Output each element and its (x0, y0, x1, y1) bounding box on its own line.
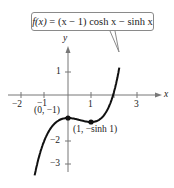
x-axis-label: x (164, 90, 168, 100)
point-label-1-neg-sinh1: (1, −sinh 1) (73, 125, 117, 135)
x-axis-arrow-icon (155, 93, 162, 98)
tick-label-x-1: 1 (88, 100, 93, 110)
tick-label-x-neg2: −2 (12, 100, 22, 110)
point-label-0-neg1: (0, −1) (34, 106, 60, 116)
function-callout: f(x) = (x − 1) cosh x − sinh x (31, 12, 154, 31)
callout-pointer (110, 31, 119, 52)
tick-label-y-1: 1 (56, 67, 61, 77)
tick-label-y-neg2: −2 (50, 136, 60, 146)
point-0-neg1 (65, 115, 70, 120)
callout-fx: f(x) (32, 16, 47, 27)
y-axis-arrow-icon (66, 46, 71, 53)
callout-formula: = (x − 1) cosh x − sinh x (47, 16, 153, 27)
tick-label-y-neg3: −3 (50, 159, 60, 169)
function-curve (35, 68, 120, 176)
tick-label-x-3: 3 (134, 100, 139, 110)
y-axis-label: y (63, 34, 67, 44)
